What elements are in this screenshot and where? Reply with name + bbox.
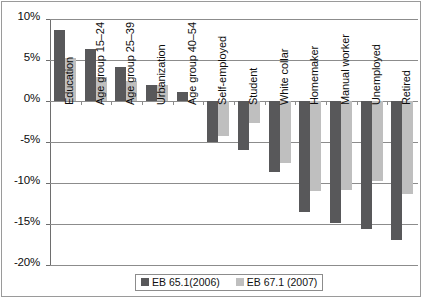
x-tick-3 <box>142 101 143 105</box>
chart-frame: EducationAge group 15–24Age group 25–39U… <box>1 1 421 297</box>
bar-0-7 <box>269 101 280 172</box>
category-label-1: Age group 15–24 <box>94 22 106 105</box>
bar-1-5 <box>218 101 229 136</box>
category-label-5: Self-employed <box>216 36 228 105</box>
bar-1-8 <box>310 101 321 191</box>
y-tick-0 <box>46 101 50 102</box>
bar-0-6 <box>238 101 249 150</box>
y-tick--15 <box>46 224 50 225</box>
bar-0-8 <box>299 101 310 212</box>
y-axis-label--15: -15% <box>0 215 40 227</box>
legend-swatch-icon-1 <box>236 278 244 286</box>
bar-0-9 <box>330 101 341 223</box>
x-tick-2 <box>111 101 112 105</box>
y-axis-label--5: -5% <box>0 133 40 145</box>
y-tick-5 <box>46 60 50 61</box>
y-axis-label-10: 10% <box>0 10 40 22</box>
x-tick-9 <box>326 101 327 105</box>
category-label-3: Urbanization <box>155 44 167 105</box>
y-tick-10 <box>46 19 50 20</box>
bar-0-10 <box>361 101 372 229</box>
bar-0-11 <box>391 101 402 240</box>
bar-1-9 <box>341 101 352 190</box>
legend-label-1: EB 67.1 (2007) <box>247 276 318 288</box>
category-label-2: Age group 25–39 <box>124 22 136 105</box>
x-tick-7 <box>265 101 266 105</box>
legend-entry-1: EB 67.1 (2007) <box>236 276 318 288</box>
legend-swatch-icon-0 <box>141 278 149 286</box>
y-tick--10 <box>46 183 50 184</box>
legend-entry-0: EB 65.1(2006) <box>141 276 220 288</box>
bar-1-10 <box>372 101 383 181</box>
y-axis-label--20: -20% <box>0 256 40 268</box>
x-tick-8 <box>295 101 296 105</box>
y-axis-label--10: -10% <box>0 174 40 186</box>
category-label-7: White collar <box>278 49 290 105</box>
y-tick--20 <box>46 265 50 266</box>
x-tick-10 <box>357 101 358 105</box>
x-tick-1 <box>81 101 82 105</box>
chart-legend: EB 65.1(2006) EB 67.1 (2007) <box>135 274 323 291</box>
category-label-4: Age group 40–54 <box>186 22 198 105</box>
x-tick-4 <box>173 101 174 105</box>
bar-0-5 <box>207 101 218 142</box>
category-label-11: Retired <box>400 70 412 105</box>
category-label-0: Education <box>63 57 75 105</box>
category-label-6: Student <box>247 68 259 105</box>
plot-area: EducationAge group 15–24Age group 25–39U… <box>50 19 418 265</box>
chart-root: EducationAge group 15–24Age group 25–39U… <box>0 0 424 300</box>
y-axis-label-0: 0% <box>0 92 40 104</box>
x-tick-6 <box>234 101 235 105</box>
gridline--20 <box>50 265 418 266</box>
bar-1-7 <box>280 101 291 163</box>
category-label-10: Unemployed <box>370 44 382 105</box>
category-label-8: Homemaker <box>308 46 320 105</box>
bar-1-11 <box>402 101 413 194</box>
category-label-9: Manual worker <box>339 34 351 105</box>
x-tick-5 <box>203 101 204 105</box>
x-tick-11 <box>387 101 388 105</box>
gridline-10 <box>50 19 418 20</box>
y-tick--5 <box>46 142 50 143</box>
legend-label-0: EB 65.1(2006) <box>152 276 220 288</box>
y-axis-label-5: 5% <box>0 51 40 63</box>
